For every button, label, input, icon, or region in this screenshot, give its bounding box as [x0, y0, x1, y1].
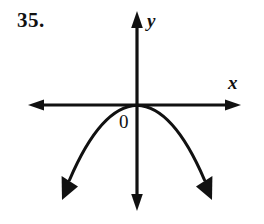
- x-axis-right-arrowhead: [225, 100, 241, 111]
- y-axis-up-arrowhead: [131, 11, 143, 28]
- figure-container: 35. y x 0: [0, 0, 264, 224]
- x-axis-left-arrowhead: [28, 100, 44, 111]
- parabola-graph: y x 0: [0, 0, 264, 224]
- y-axis-label: y: [145, 10, 156, 31]
- y-axis-group: [131, 11, 143, 211]
- x-axis-label: x: [227, 72, 238, 93]
- origin-label: 0: [119, 111, 129, 132]
- y-axis-down-arrowhead: [131, 194, 143, 211]
